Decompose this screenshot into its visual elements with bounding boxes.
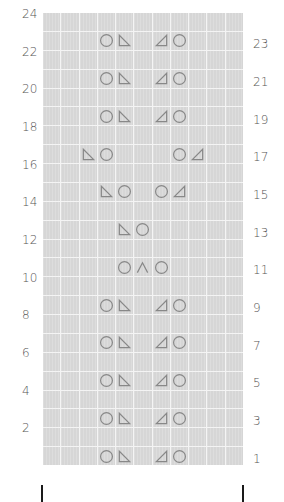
chart-cell (171, 164, 188, 182)
chart-cell (116, 145, 133, 163)
chart-cell (61, 145, 78, 163)
chart-cell (116, 296, 133, 314)
chart-cell (43, 13, 60, 31)
row-label-left: 8 (22, 309, 30, 321)
chart-cell (153, 409, 170, 427)
chart-cell (43, 258, 60, 276)
chart-cell (189, 391, 206, 409)
yarn-over-icon (99, 373, 114, 388)
row-label-right: 19 (253, 114, 268, 126)
chart-cell (189, 372, 206, 390)
chart-cell (153, 202, 170, 220)
chart-cell (98, 372, 115, 390)
chart-cell (43, 296, 60, 314)
chart-cell (226, 70, 243, 88)
chart-cell (189, 258, 206, 276)
chart-cell (153, 183, 170, 201)
chart-cell (207, 372, 224, 390)
chart-cell (226, 145, 243, 163)
chart-cell (189, 315, 206, 333)
chart-cell (80, 221, 97, 239)
chart-cell (80, 428, 97, 446)
yarn-over-icon (135, 222, 150, 237)
yarn-over-icon (154, 184, 169, 199)
chart-cell (171, 202, 188, 220)
chart-cell (207, 202, 224, 220)
chart-cell (134, 107, 151, 125)
chart-cell (61, 353, 78, 371)
chart-cell (189, 277, 206, 295)
chart-cell (116, 409, 133, 427)
chart-cell (98, 164, 115, 182)
chart-cell (80, 145, 97, 163)
chart-cell (171, 32, 188, 50)
chart-cell (61, 126, 78, 144)
yarn-over-icon (99, 449, 114, 464)
chart-cell (134, 240, 151, 258)
chart-cell (207, 107, 224, 125)
chart-cell (171, 126, 188, 144)
chart-cell (98, 447, 115, 465)
chart-cell (134, 51, 151, 69)
k2tog-decrease-icon (154, 71, 169, 86)
chart-cell (171, 240, 188, 258)
chart-cell (153, 70, 170, 88)
chart-cell (43, 353, 60, 371)
chart-cell (207, 240, 224, 258)
chart-cell (98, 89, 115, 107)
chart-cell (189, 107, 206, 125)
chart-cell (153, 126, 170, 144)
ssk-decrease-icon (117, 33, 132, 48)
chart-cell (80, 126, 97, 144)
chart-cell (116, 51, 133, 69)
chart-cell (80, 164, 97, 182)
chart-cell (43, 51, 60, 69)
chart-cell (43, 428, 60, 446)
row-label-left: 22 (22, 46, 37, 58)
ssk-decrease-icon (117, 373, 132, 388)
chart-cell (98, 391, 115, 409)
yarn-over-icon (99, 71, 114, 86)
chart-cell (189, 334, 206, 352)
chart-cell (207, 258, 224, 276)
chart-cell (226, 107, 243, 125)
knitting-chart-grid (43, 13, 243, 465)
chart-cell (189, 13, 206, 31)
chart-cell (98, 145, 115, 163)
chart-cell (98, 183, 115, 201)
chart-cell (116, 240, 133, 258)
row-label-left: 14 (22, 196, 37, 208)
chart-cell (80, 70, 97, 88)
chart-cell (153, 13, 170, 31)
row-label-right: 5 (253, 377, 261, 389)
chart-cell (171, 315, 188, 333)
chart-cell (153, 258, 170, 276)
chart-cell (116, 13, 133, 31)
chart-cell (171, 13, 188, 31)
chart-cell (171, 277, 188, 295)
yarn-over-icon (99, 147, 114, 162)
ssk-decrease-icon (99, 184, 114, 199)
yarn-over-icon (172, 411, 187, 426)
yarn-over-icon (172, 33, 187, 48)
chart-cell (171, 334, 188, 352)
yarn-over-icon (172, 71, 187, 86)
ssk-decrease-icon (117, 222, 132, 237)
chart-cell (43, 372, 60, 390)
chart-cell (171, 221, 188, 239)
chart-cell (134, 428, 151, 446)
chart-cell (153, 372, 170, 390)
chart-cell (116, 164, 133, 182)
chart-cell (226, 202, 243, 220)
chart-cell (226, 447, 243, 465)
chart-cell (171, 296, 188, 314)
chart-cell (61, 32, 78, 50)
yarn-over-icon (99, 109, 114, 124)
k2tog-decrease-icon (154, 335, 169, 350)
chart-cell (116, 277, 133, 295)
chart-cell (43, 391, 60, 409)
chart-cell (61, 391, 78, 409)
double-decrease-icon (135, 260, 150, 275)
chart-cell (207, 51, 224, 69)
chart-cell (226, 183, 243, 201)
